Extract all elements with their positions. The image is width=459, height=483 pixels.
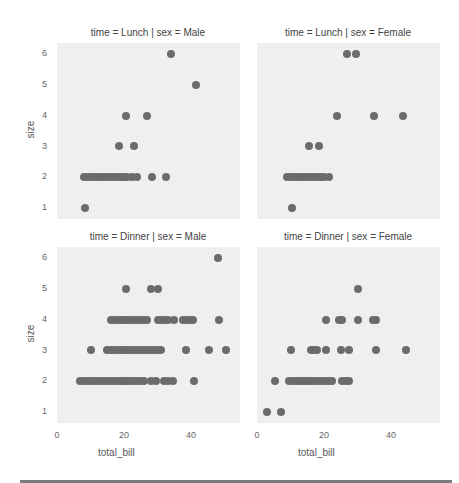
- data-point: [345, 346, 353, 354]
- data-point: [189, 316, 197, 324]
- data-point: [313, 346, 321, 354]
- facet-title-dinner-male: time = Dinner | sex = Male: [48, 231, 248, 242]
- data-point: [122, 112, 130, 120]
- ytick-4: 4: [33, 314, 47, 324]
- facet-title-lunch-male: time = Lunch | sex = Male: [48, 27, 248, 38]
- plot-panel-dinner-female: [257, 247, 440, 423]
- ytick-6: 6: [33, 252, 47, 262]
- xtick-40: 40: [181, 430, 201, 440]
- x-axis-label-right: total_bill: [298, 447, 335, 458]
- data-point: [182, 346, 190, 354]
- data-point: [157, 346, 165, 354]
- data-point: [263, 408, 271, 416]
- data-point: [162, 173, 170, 181]
- data-point: [399, 112, 407, 120]
- y-axis-label-top: size: [25, 121, 36, 139]
- data-point: [372, 316, 380, 324]
- data-point: [372, 346, 380, 354]
- xtick-20: 20: [314, 430, 334, 440]
- data-point: [328, 377, 336, 385]
- data-point: [288, 204, 296, 212]
- data-point: [333, 112, 341, 120]
- data-point: [287, 346, 295, 354]
- ytick-2: 2: [33, 171, 47, 181]
- data-point: [222, 346, 230, 354]
- ytick-4: 4: [33, 110, 47, 120]
- data-point: [354, 285, 362, 293]
- data-point: [214, 254, 222, 262]
- ytick-5: 5: [33, 283, 47, 293]
- data-point: [277, 408, 285, 416]
- data-point: [322, 346, 330, 354]
- ytick-2: 2: [33, 375, 47, 385]
- data-point: [130, 142, 138, 150]
- data-point: [192, 81, 200, 89]
- ytick-6: 6: [33, 48, 47, 58]
- data-point: [143, 112, 151, 120]
- plot-panel-dinner-male: [57, 247, 240, 423]
- data-point: [190, 377, 198, 385]
- xtick-0: 0: [47, 430, 67, 440]
- data-point: [343, 50, 351, 58]
- data-point: [402, 346, 410, 354]
- facet-title-lunch-female: time = Lunch | sex = Female: [248, 27, 448, 38]
- y-axis-label-bottom: size: [25, 325, 36, 343]
- xtick-0: 0: [247, 430, 267, 440]
- data-point: [325, 173, 333, 181]
- data-point: [345, 377, 353, 385]
- data-point: [152, 377, 160, 385]
- data-point: [354, 316, 362, 324]
- data-point: [148, 173, 156, 181]
- plot-panel-lunch-male: [57, 43, 240, 219]
- data-point: [87, 346, 95, 354]
- facet-title-dinner-female: time = Dinner | sex = Female: [248, 231, 448, 242]
- ytick-5: 5: [33, 79, 47, 89]
- x-axis-label-left: total_bill: [98, 447, 135, 458]
- data-point: [167, 50, 175, 58]
- data-point: [205, 346, 213, 354]
- xtick-20: 20: [114, 430, 134, 440]
- ytick-1: 1: [33, 406, 47, 416]
- data-point: [338, 316, 346, 324]
- plot-panel-lunch-female: [257, 43, 440, 219]
- ytick-3: 3: [33, 345, 47, 355]
- ytick-3: 3: [33, 141, 47, 151]
- data-point: [133, 173, 141, 181]
- data-point: [143, 316, 151, 324]
- data-point: [271, 377, 279, 385]
- ytick-1: 1: [33, 202, 47, 212]
- data-point: [170, 316, 178, 324]
- data-point: [81, 204, 89, 212]
- data-point: [154, 285, 162, 293]
- data-point: [315, 142, 323, 150]
- data-point: [352, 50, 360, 58]
- data-point: [337, 346, 345, 354]
- xtick-40: 40: [381, 430, 401, 440]
- data-point: [370, 112, 378, 120]
- data-point: [322, 316, 330, 324]
- data-point: [115, 142, 123, 150]
- data-point: [122, 285, 130, 293]
- data-point: [169, 377, 177, 385]
- data-point: [305, 142, 313, 150]
- data-point: [215, 316, 223, 324]
